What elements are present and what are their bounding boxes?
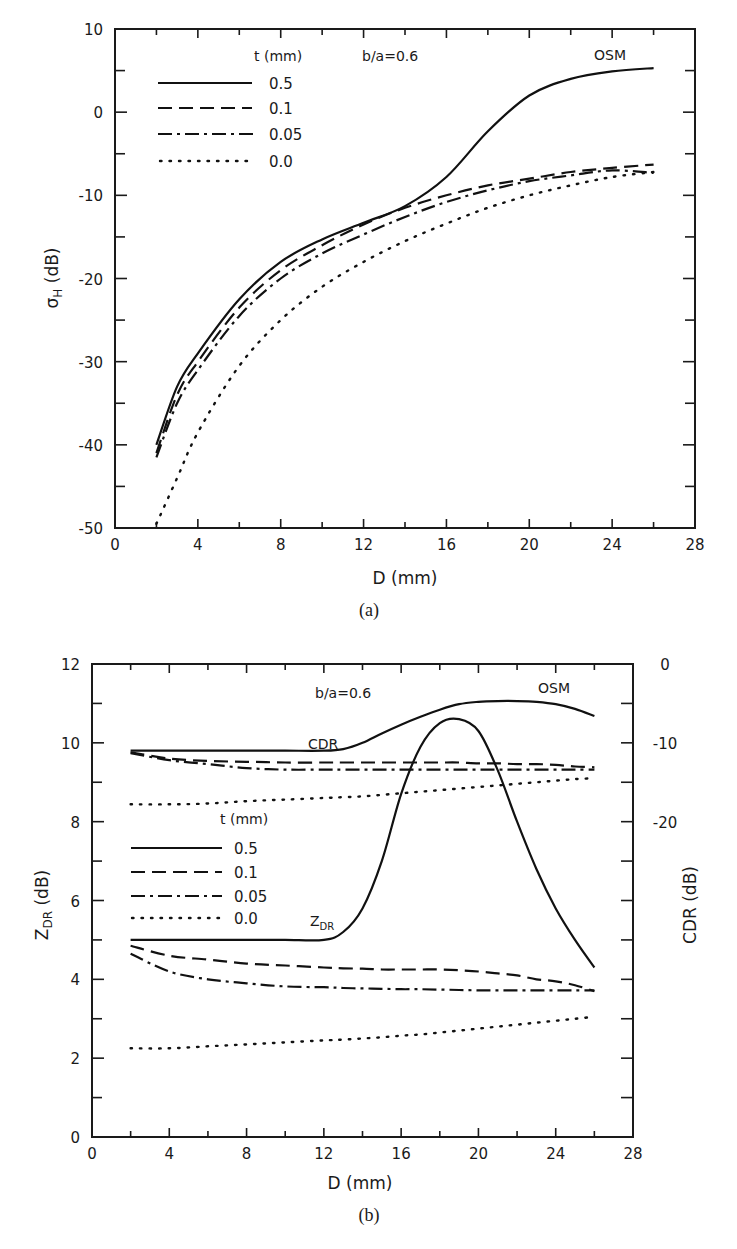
x-tick-label: 28	[685, 536, 704, 554]
x-tick-label: 8	[276, 536, 286, 554]
x-tick-label: 20	[469, 1145, 488, 1163]
x-tick-label: 24	[546, 1145, 565, 1163]
panel-b: 0481216202428024681012-20-100 ZDR (dB) C…	[32, 656, 700, 1226]
annotation-ratio-b: b/a=0.6	[315, 685, 371, 701]
y-tick-label: 10	[84, 21, 103, 39]
series-line-cdr-0-0	[131, 778, 595, 804]
annotation-zdr: ZDR	[310, 913, 334, 932]
annotation-ratio-a: b/a=0.6	[362, 48, 418, 64]
y-axis-title-a: σH (dB)	[42, 248, 65, 309]
legend-label: 0.5	[234, 840, 258, 858]
series-line-cdr-0-1	[131, 752, 595, 767]
series-line-zdr-0-5	[131, 719, 595, 968]
x-tick-label: 20	[520, 536, 539, 554]
legend-b: 0.5 0.1 0.05 0.0	[131, 840, 267, 928]
panel-a: 0481216202428-50-40-30-20-10010 σH (dB) …	[42, 21, 705, 621]
annotation-model-a: OSM	[594, 47, 626, 63]
x-axis-title-a: D (mm)	[373, 568, 438, 588]
legend-label: 0.1	[269, 100, 293, 118]
y-tick-label: -40	[79, 437, 104, 455]
y-tick-label: 8	[70, 814, 80, 832]
y-tick-label: 4	[70, 971, 80, 989]
y-tick-label: 6	[70, 893, 80, 911]
y-axis-title-right-b: CDR (dB)	[680, 866, 700, 944]
legend-label: 0.05	[234, 888, 267, 906]
annotation-model-b: OSM	[538, 680, 570, 696]
legend-label: 0.0	[269, 153, 293, 171]
x-tick-label: 0	[87, 1145, 97, 1163]
legend-title-a: t (mm)	[254, 48, 302, 64]
y-tick-label-right: 0	[660, 656, 670, 674]
axis-ticks-b: 0481216202428024681012-20-100	[61, 656, 677, 1163]
y-tick-label: -50	[79, 520, 104, 538]
annotation-cdr: CDR	[308, 736, 339, 752]
axis-ticks-a: 0481216202428-50-40-30-20-10010	[79, 21, 705, 554]
legend-title-b: t (mm)	[220, 811, 268, 827]
caption-a: (a)	[359, 600, 379, 621]
x-tick-label: 12	[314, 1145, 333, 1163]
legend-label: 0.1	[234, 864, 258, 882]
x-tick-label: 24	[603, 536, 622, 554]
y-tick-label: -30	[79, 354, 104, 372]
x-tick-label: 16	[392, 1145, 411, 1163]
series-line-0-0	[156, 172, 653, 524]
legend-label: 0.0	[234, 910, 258, 928]
x-tick-label: 4	[165, 1145, 175, 1163]
x-tick-label: 0	[110, 536, 120, 554]
x-tick-label: 12	[354, 536, 373, 554]
x-tick-label: 16	[437, 536, 456, 554]
legend-a: 0.5 0.1 0.05 0.0	[158, 75, 302, 171]
y-tick-label-right: -20	[653, 814, 678, 832]
x-tick-label: 4	[193, 536, 203, 554]
y-tick-label-right: -10	[653, 735, 678, 753]
series-line-0-05	[156, 170, 653, 457]
series-line-cdr-0-5	[131, 701, 595, 751]
y-tick-label: -10	[79, 187, 104, 205]
series-group-b	[131, 701, 595, 1048]
series-group-a	[156, 68, 653, 524]
x-tick-label: 28	[623, 1145, 642, 1163]
caption-b: (b)	[359, 1205, 380, 1226]
y-tick-label: 0	[93, 104, 103, 122]
series-line-0-5	[156, 68, 653, 445]
figure: 0481216202428-50-40-30-20-10010 σH (dB) …	[0, 0, 737, 1249]
legend-label: 0.05	[269, 126, 302, 144]
y-tick-label: 2	[70, 1050, 80, 1068]
series-line-zdr-0-0	[131, 1017, 595, 1049]
x-axis-title-b: D (mm)	[328, 1173, 393, 1193]
x-tick-label: 8	[242, 1145, 252, 1163]
y-tick-label: 12	[61, 656, 80, 674]
plot-frame-a	[115, 29, 695, 528]
y-tick-label: 10	[61, 735, 80, 753]
y-axis-title-b: ZDR (dB)	[32, 870, 55, 940]
legend-label: 0.5	[269, 75, 293, 93]
y-tick-label: 0	[70, 1129, 80, 1147]
y-tick-label: -20	[79, 271, 104, 289]
series-line-zdr-0-1	[131, 946, 595, 991]
